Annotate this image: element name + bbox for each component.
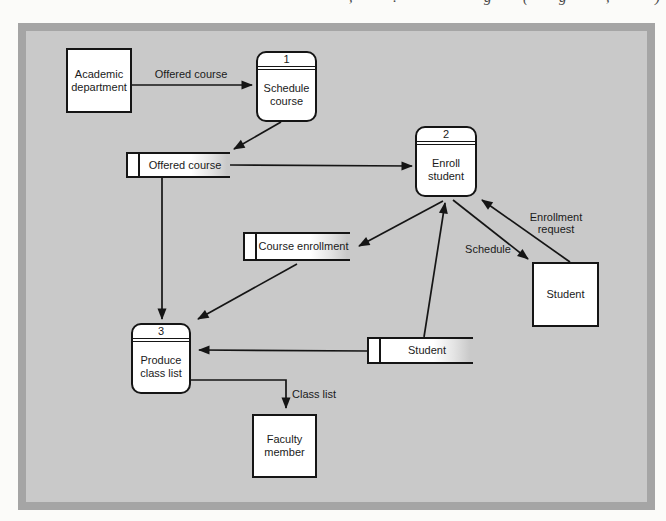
- fragment-mark: ): [655, 0, 660, 6]
- datastore-id-cell: [245, 234, 257, 259]
- entity-label: Academic department: [71, 68, 127, 94]
- process-enroll-student: 2 Enroll student: [415, 126, 477, 197]
- datastore-label: Offered course: [140, 154, 230, 176]
- datastore-id-cell: [369, 339, 381, 362]
- flow-label-offered-course: Offered course: [136, 68, 246, 80]
- process-label: Produce class list: [133, 342, 189, 392]
- process-number: 3: [133, 325, 189, 342]
- fragment-mark: ,: [349, 0, 353, 6]
- flow-label-class-list: Class list: [292, 388, 350, 400]
- process-label: Schedule course: [258, 70, 315, 120]
- fragment-mark: (: [523, 0, 528, 6]
- datastore-course-enrollment: Course enrollment: [243, 232, 350, 261]
- fragment-mark: .: [393, 0, 397, 6]
- fragment-mark: ,: [606, 0, 610, 6]
- process-number: 2: [417, 128, 475, 145]
- entity-faculty-member: Faculty member: [252, 414, 317, 478]
- cropped-text-fragment: , . g ( g , ): [0, 0, 666, 10]
- entity-label: Faculty member: [264, 433, 304, 459]
- process-schedule-course: 1 Schedule course: [256, 51, 317, 122]
- process-produce-class-list: 3 Produce class list: [131, 323, 191, 394]
- entity-student: Student: [532, 262, 599, 327]
- entity-academic-department: Academic department: [66, 48, 132, 113]
- fragment-mark: g: [484, 0, 492, 6]
- datastore-offered-course: Offered course: [126, 152, 230, 178]
- fragment-mark: g: [559, 0, 567, 6]
- process-number: 1: [258, 53, 315, 70]
- flow-label-enrollment-request: Enrollment request: [508, 211, 604, 235]
- entity-label: Student: [547, 288, 585, 301]
- datastore-label: Student: [381, 339, 473, 362]
- figure-page: , . g ( g , ) Academic department: [0, 0, 666, 521]
- datastore-label: Course enrollment: [257, 234, 350, 259]
- process-label: Enroll student: [417, 145, 475, 195]
- datastore-student: Student: [367, 337, 473, 364]
- datastore-id-cell: [128, 154, 140, 176]
- flow-label-schedule: Schedule: [450, 243, 526, 255]
